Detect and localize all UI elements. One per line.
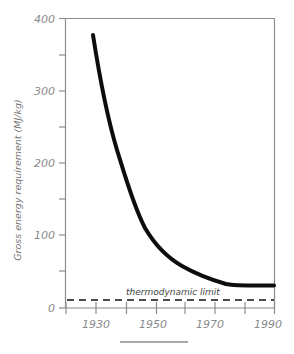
y-tick-label-100: 100: [34, 229, 55, 242]
x-tick-label-1970: 1970: [196, 318, 224, 331]
energy-requirement-curve: [93, 35, 274, 286]
thermodynamic-limit-label: thermodynamic limit: [126, 287, 220, 297]
x-tick-label-1990: 1990: [254, 318, 282, 331]
x-tick-label-1950: 1950: [139, 318, 167, 331]
y-tick-label-400: 400: [34, 13, 55, 26]
y-ticks: [59, 19, 66, 309]
y-tick-label-300: 300: [34, 85, 55, 98]
y-tick-label-0: 0: [48, 302, 55, 315]
y-axis-title: Gross energy requirement (MJ/kg): [12, 99, 23, 261]
y-tick-label-200: 200: [34, 157, 55, 170]
x-tick-label-1930: 1930: [82, 318, 110, 331]
chart: 400 300 200 100 0 1930 1950 1970 1990 Gr…: [0, 0, 294, 354]
